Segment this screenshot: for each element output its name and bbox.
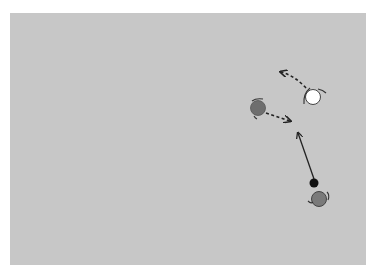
ball-trajectory-arrow bbox=[298, 133, 314, 179]
agent-dark-bottom bbox=[308, 192, 329, 207]
dashed-arrow-white-agent bbox=[281, 72, 306, 88]
dashed-arrow-dark-agent bbox=[266, 113, 290, 121]
scene-diagram bbox=[0, 0, 375, 274]
ball bbox=[310, 179, 319, 188]
agent-white bbox=[304, 88, 326, 105]
agent-dark-left bbox=[251, 99, 266, 119]
